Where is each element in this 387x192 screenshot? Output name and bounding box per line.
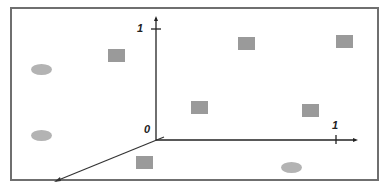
z-axis-arrow-icon (54, 177, 61, 182)
diagram-canvas: 1 1 0 (0, 0, 387, 192)
square-point (191, 101, 208, 114)
ellipse-point (31, 130, 52, 141)
square-point (336, 35, 353, 48)
square-point (302, 104, 319, 117)
y-axis-arrow-icon (154, 16, 158, 21)
x-axis-tick-label: 1 (332, 120, 338, 131)
square-point (238, 37, 255, 50)
origin-label: 0 (144, 124, 150, 135)
ellipse-point (281, 162, 302, 173)
ellipse-point (31, 64, 52, 75)
square-point (136, 156, 153, 169)
square-point (108, 49, 125, 62)
x-axis-arrow-icon (353, 138, 358, 142)
axes (0, 0, 387, 192)
y-axis-tick-label: 1 (137, 23, 143, 34)
